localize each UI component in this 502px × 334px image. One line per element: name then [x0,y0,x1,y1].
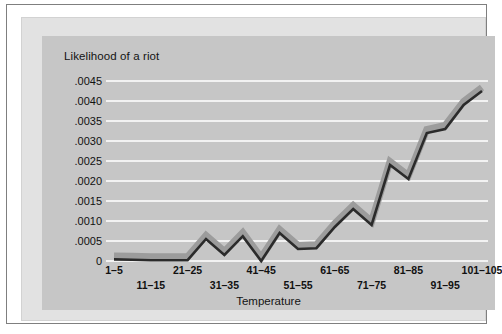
x-axis-title: Temperature [42,295,495,307]
y-axis-tick-label: .0030 [52,135,102,147]
gridlines-group [106,81,488,261]
x-axis-tick-label: 11–15 [136,279,165,291]
series-group [114,88,482,262]
y-axis-tick-label: .0040 [52,95,102,107]
series-line-shadow [114,88,482,258]
y-axis-tick-label: .0015 [52,195,102,207]
x-axis-tick-label: 71–75 [357,279,386,291]
y-axis-tick-label: .0005 [52,235,102,247]
x-axis-tick-label: 101–105 [462,264,502,276]
y-axis-tick-label: .0045 [52,75,102,87]
x-axis-tick-label: 81–85 [394,264,423,276]
x-axis-tick-label: 1–5 [105,264,123,276]
x-axis-tick-label: 31–35 [210,279,239,291]
x-axis-tick-label: 91–95 [431,279,460,291]
y-axis-tick-label: .0025 [52,155,102,167]
chart-outer-bevel: Likelihood of a riot .0045.0040.0035.003… [21,17,486,321]
y-axis-tick-label: .0010 [52,215,102,227]
x-axis-tick-label: 61–65 [320,264,349,276]
x-axis-tick-label: 41–45 [247,264,276,276]
series-line [114,91,482,261]
y-axis-tick-label: .0035 [52,115,102,127]
y-axis-tick-label: 0 [52,255,102,267]
x-axis-tick-label: 21–25 [173,264,202,276]
chart-plot-area: Likelihood of a riot .0045.0040.0035.003… [42,36,495,310]
x-axis-tick-label: 51–55 [283,279,312,291]
y-axis-tick-label: .0020 [52,175,102,187]
figure-frame: Likelihood of a riot .0045.0040.0035.003… [6,4,487,324]
